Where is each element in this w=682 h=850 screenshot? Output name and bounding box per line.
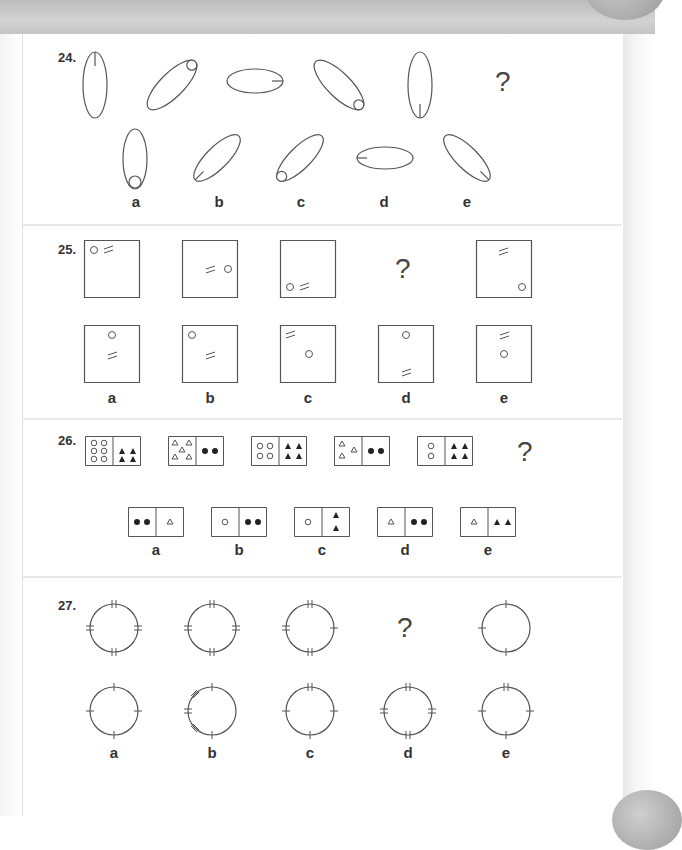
q25-option-c-figure[interactable] [280, 325, 336, 383]
q25-option-b-label[interactable]: b [195, 389, 225, 406]
q24-option-e-label[interactable]: e [452, 193, 482, 210]
question-number-24: 24. [58, 50, 76, 65]
q24-option-b-figure[interactable] [192, 130, 242, 186]
q27-figure-2 [184, 600, 240, 656]
q27-figure-1 [86, 600, 142, 656]
q27-option-e-label[interactable]: e [491, 744, 521, 761]
q26-option-a-figure[interactable] [128, 507, 184, 537]
q27-option-c-label[interactable]: c [295, 744, 325, 761]
q26-option-d-label[interactable]: d [390, 541, 420, 558]
section-divider [22, 418, 622, 420]
q24-question-mark: ? [495, 66, 511, 98]
q25-option-a-label[interactable]: a [97, 389, 127, 406]
q27-figure-3 [282, 600, 338, 656]
q24-figure-4 [312, 55, 367, 115]
q26-figure-2 [168, 436, 224, 466]
q27-option-b-label[interactable]: b [197, 744, 227, 761]
q27-option-d-figure[interactable] [380, 683, 436, 739]
page-left-edge [0, 34, 22, 816]
q26-option-d-figure[interactable] [377, 507, 433, 537]
q25-question-mark: ? [395, 253, 411, 285]
q25-figure-3 [280, 240, 336, 298]
q24-option-a-label[interactable]: a [121, 193, 151, 210]
q25-option-d-figure[interactable] [378, 325, 434, 383]
q24-option-c-figure[interactable] [275, 130, 325, 186]
section-divider [22, 576, 622, 578]
question-number-27: 27. [58, 598, 76, 613]
q25-option-c-label[interactable]: c [293, 389, 323, 406]
q27-option-c-figure[interactable] [282, 683, 338, 739]
q27-figure-5 [478, 600, 534, 656]
q25-figure-2 [182, 240, 238, 298]
q26-figure-4 [334, 436, 390, 466]
q27-option-b-figure[interactable] [184, 683, 240, 739]
q25-option-b-figure[interactable] [182, 325, 238, 383]
q24-figure-5 [405, 50, 435, 120]
q26-option-c-figure[interactable] [294, 507, 350, 537]
q24-option-d-figure[interactable] [355, 145, 415, 171]
q27-option-a-figure[interactable] [86, 683, 142, 739]
q24-figure-1 [80, 50, 110, 120]
q26-figure-1 [85, 436, 141, 466]
q25-option-a-figure[interactable] [84, 325, 140, 383]
q24-option-a-figure[interactable] [120, 127, 150, 191]
q26-option-b-figure[interactable] [211, 507, 267, 537]
q24-option-b-label[interactable]: b [204, 193, 234, 210]
q25-figure-1 [84, 240, 140, 298]
q26-option-e-figure[interactable] [460, 507, 516, 537]
question-number-25: 25. [58, 242, 76, 257]
q24-figure-2 [145, 55, 200, 115]
q27-option-d-label[interactable]: d [393, 744, 423, 761]
page-corner-decoration [612, 790, 682, 850]
q24-option-e-figure[interactable] [442, 130, 492, 186]
section-divider [22, 224, 622, 226]
q25-figure-5 [476, 240, 532, 298]
q26-question-mark: ? [517, 436, 533, 468]
q26-option-c-label[interactable]: c [307, 541, 337, 558]
q25-option-e-label[interactable]: e [489, 389, 519, 406]
q27-option-e-figure[interactable] [478, 683, 534, 739]
q26-option-e-label[interactable]: e [473, 541, 503, 558]
q26-option-a-label[interactable]: a [141, 541, 171, 558]
page-top-band [0, 0, 655, 34]
q26-figure-3 [251, 436, 307, 466]
page-right-edge [622, 34, 655, 816]
q27-question-mark: ? [397, 612, 413, 644]
q26-figure-5 [417, 436, 473, 466]
q27-option-a-label[interactable]: a [99, 744, 129, 761]
q25-option-e-figure[interactable] [476, 325, 532, 383]
q24-figure-3 [225, 66, 285, 96]
question-number-26: 26. [58, 433, 76, 448]
q24-option-d-label[interactable]: d [369, 193, 399, 210]
q26-option-b-label[interactable]: b [224, 541, 254, 558]
q25-option-d-label[interactable]: d [391, 389, 421, 406]
q24-option-c-label[interactable]: c [286, 193, 316, 210]
